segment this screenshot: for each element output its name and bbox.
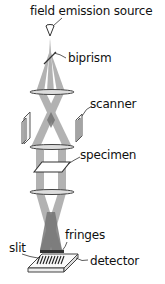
source-leader-line: [53, 18, 62, 26]
detector-label: detector: [90, 255, 139, 267]
fringes-label: fringes: [65, 229, 105, 241]
fringes-pattern-icon: [40, 250, 64, 253]
biprism-leader-line: [54, 53, 66, 58]
scanner-label: scanner: [90, 98, 136, 110]
fringes-leader-line: [62, 242, 67, 251]
specimen-leader-line: [68, 157, 80, 164]
biprism-label: biprism: [68, 52, 111, 64]
slit-label: slit: [9, 242, 26, 254]
field-emission-source-label: field emission source: [30, 5, 152, 17]
detector-icon: [28, 254, 78, 272]
field-emission-source-icon: [46, 25, 54, 37]
specimen-label: specimen: [80, 149, 136, 161]
